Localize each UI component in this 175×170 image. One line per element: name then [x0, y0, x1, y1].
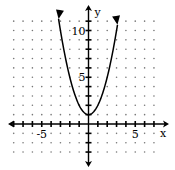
grid-dot [69, 58, 71, 60]
grid-dot [13, 20, 15, 22]
grid-dot [134, 67, 136, 69]
y-axis-label: y [94, 6, 102, 19]
grid-dot [32, 76, 34, 78]
grid-dot [22, 30, 24, 32]
grid-dot [106, 67, 108, 69]
grid-dot [125, 76, 127, 78]
grid-dot [97, 133, 99, 135]
grid-dot [50, 95, 52, 97]
grid-dot [22, 133, 24, 135]
grid-dot [153, 30, 155, 32]
grid-dot [153, 67, 155, 69]
grid-dot [125, 58, 127, 60]
grid-dot [97, 142, 99, 144]
grid-dot [125, 114, 127, 116]
grid-dot [97, 151, 99, 153]
grid-dot [153, 86, 155, 88]
grid-dot [97, 76, 99, 78]
grid-dot [116, 58, 118, 60]
grid-dot [125, 95, 127, 97]
grid-dot [134, 105, 136, 107]
grid-dot [134, 151, 136, 153]
grid-dot [69, 133, 71, 135]
grid-dot [60, 58, 62, 60]
grid-dot [153, 114, 155, 116]
grid-dot [41, 86, 43, 88]
grid-dot [106, 48, 108, 50]
grid-dot [32, 67, 34, 69]
grid-dot [144, 20, 146, 22]
grid-dot [60, 48, 62, 50]
grid-dot [60, 67, 62, 69]
grid-dot [134, 76, 136, 78]
grid-dot [41, 67, 43, 69]
grid-dot [22, 95, 24, 97]
grid-dot [41, 114, 43, 116]
grid-dot [125, 20, 127, 22]
grid-dot [32, 142, 34, 144]
grid-dot [13, 133, 15, 135]
grid-dot [22, 142, 24, 144]
grid-dot [41, 30, 43, 32]
grid-dot [106, 30, 108, 32]
grid-dot [78, 86, 80, 88]
grid-dot [134, 30, 136, 32]
grid-dot [125, 30, 127, 32]
grid-dot [50, 58, 52, 60]
grid-dot [60, 39, 62, 41]
grid-dot [153, 48, 155, 50]
grid-dot [78, 58, 80, 60]
grid-dot [60, 76, 62, 78]
grid-dot [106, 133, 108, 135]
grid-dot [153, 95, 155, 97]
grid-dot [116, 105, 118, 107]
grid-dot [50, 39, 52, 41]
grid-dot [32, 39, 34, 41]
grid-dot [125, 142, 127, 144]
grid-dot [78, 67, 80, 69]
grid-dot [125, 48, 127, 50]
grid-dot [144, 142, 146, 144]
grid-dot [50, 133, 52, 135]
grid-dot [144, 114, 146, 116]
grid-dot [69, 48, 71, 50]
grid-dot [116, 48, 118, 50]
grid-dot [50, 142, 52, 144]
grid-dot [97, 114, 99, 116]
grid-dot [144, 30, 146, 32]
grid-dot [78, 114, 80, 116]
grid-dot [69, 39, 71, 41]
grid-dot [144, 105, 146, 107]
grid-dot [41, 48, 43, 50]
grid-dot [106, 105, 108, 107]
grid-dot [69, 105, 71, 107]
grid-dot [153, 105, 155, 107]
grid-dot [60, 151, 62, 153]
grid-dot [50, 48, 52, 50]
grid-dot [13, 39, 15, 41]
grid-dot [32, 133, 34, 135]
grid-dot [41, 39, 43, 41]
grid-dot [41, 142, 43, 144]
grid-dot [41, 58, 43, 60]
grid-dot [153, 133, 155, 135]
grid-dot [144, 86, 146, 88]
grid-dot [134, 20, 136, 22]
grid-dot [78, 133, 80, 135]
grid-dot [153, 20, 155, 22]
grid-dot [22, 58, 24, 60]
grid-dot [13, 95, 15, 97]
grid-dot [22, 39, 24, 41]
grid-dot [22, 114, 24, 116]
grid-dot [60, 95, 62, 97]
y-tick-label: 10 [72, 25, 86, 38]
grid-dot [97, 95, 99, 97]
grid-dot [125, 86, 127, 88]
grid-dot [22, 86, 24, 88]
grid-dot [106, 142, 108, 144]
grid-dot [106, 86, 108, 88]
grid-dot [116, 95, 118, 97]
grid-dot [32, 58, 34, 60]
grid-dot [144, 58, 146, 60]
grid-dot [116, 142, 118, 144]
